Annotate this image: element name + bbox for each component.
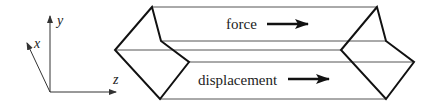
y-axis-label: y	[55, 13, 64, 28]
displacement-label: displacement	[198, 72, 278, 88]
z-axis-label: z	[112, 72, 119, 87]
shear-diagram: y x z force displacement	[0, 0, 438, 106]
force-label: force	[226, 16, 257, 32]
right-end-face	[341, 7, 414, 99]
x-axis-label: x	[33, 36, 41, 51]
coordinate-axes: y x z	[27, 13, 119, 92]
left-end-face	[115, 7, 189, 99]
